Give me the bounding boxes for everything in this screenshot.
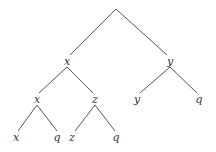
edge-y-y bbox=[140, 67, 170, 93]
edge-y-q bbox=[170, 67, 197, 93]
edge-z-z-leaf bbox=[75, 105, 95, 131]
edge-root-x bbox=[70, 9, 116, 55]
node-labels: x y x z y q x q z q bbox=[13, 55, 203, 144]
node-z-level2: z bbox=[91, 93, 98, 106]
node-z-leaf: z bbox=[68, 131, 75, 144]
node-x-level2: x bbox=[34, 93, 41, 106]
edge-root-y bbox=[116, 9, 167, 55]
node-x-leaf: x bbox=[13, 131, 20, 144]
edge-z-q-leaf bbox=[95, 105, 115, 131]
node-y-level2: y bbox=[133, 93, 141, 106]
node-q-level2: q bbox=[195, 93, 202, 106]
edge-x-q-leaf bbox=[37, 105, 57, 131]
edges bbox=[18, 9, 197, 131]
node-x-level1: x bbox=[64, 55, 71, 68]
tree-diagram: x y x z y q x q z q bbox=[0, 0, 216, 152]
node-y-level1: y bbox=[166, 55, 174, 68]
node-q-leaf-1: q bbox=[53, 131, 60, 144]
edge-x-z bbox=[67, 67, 93, 93]
edge-x-x-leaf bbox=[18, 105, 37, 131]
node-q-leaf-2: q bbox=[112, 131, 119, 144]
edge-x-x bbox=[39, 67, 67, 93]
